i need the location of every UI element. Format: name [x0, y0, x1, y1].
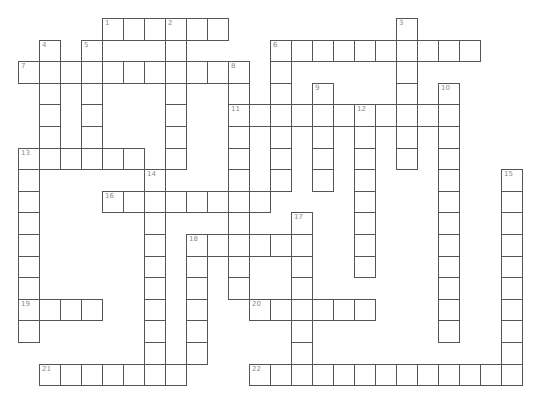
crossword-cell[interactable]	[81, 104, 103, 127]
crossword-cell[interactable]	[291, 256, 313, 279]
crossword-cell[interactable]	[501, 299, 523, 322]
crossword-cell[interactable]	[81, 83, 103, 106]
crossword-cell[interactable]: 19	[18, 299, 40, 322]
crossword-cell[interactable]	[375, 364, 397, 387]
crossword-cell[interactable]	[18, 256, 40, 279]
crossword-cell[interactable]	[312, 148, 334, 171]
crossword-cell[interactable]	[228, 277, 250, 300]
crossword-cell[interactable]	[186, 342, 208, 365]
crossword-cell[interactable]	[18, 277, 40, 300]
crossword-cell[interactable]	[333, 40, 355, 63]
crossword-cell[interactable]	[144, 277, 166, 300]
crossword-cell[interactable]	[459, 364, 481, 387]
crossword-cell[interactable]	[144, 320, 166, 343]
crossword-cell[interactable]	[396, 126, 418, 149]
crossword-cell[interactable]	[165, 61, 187, 84]
crossword-cell[interactable]	[354, 364, 376, 387]
crossword-cell[interactable]	[333, 364, 355, 387]
crossword-cell[interactable]	[312, 169, 334, 192]
crossword-cell[interactable]	[186, 256, 208, 279]
crossword-cell[interactable]: 4	[39, 40, 61, 63]
crossword-cell[interactable]	[375, 104, 397, 127]
crossword-cell[interactable]: 21	[39, 364, 61, 387]
crossword-cell[interactable]	[249, 234, 271, 257]
crossword-cell[interactable]: 2	[165, 18, 187, 41]
crossword-cell[interactable]: 11	[228, 104, 250, 127]
crossword-cell[interactable]	[228, 169, 250, 192]
crossword-cell[interactable]: 16	[102, 191, 124, 214]
crossword-cell[interactable]: 8	[228, 61, 250, 84]
crossword-cell[interactable]	[438, 191, 460, 214]
crossword-cell[interactable]	[228, 234, 250, 257]
crossword-cell[interactable]	[417, 40, 439, 63]
crossword-cell[interactable]	[354, 148, 376, 171]
crossword-cell[interactable]	[396, 104, 418, 127]
crossword-cell[interactable]: 15	[501, 169, 523, 192]
crossword-cell[interactable]	[144, 212, 166, 235]
crossword-cell[interactable]	[228, 126, 250, 149]
crossword-cell[interactable]	[396, 148, 418, 171]
crossword-cell[interactable]	[480, 364, 502, 387]
crossword-cell[interactable]	[144, 191, 166, 214]
crossword-cell[interactable]	[501, 212, 523, 235]
crossword-cell[interactable]	[144, 234, 166, 257]
crossword-cell[interactable]	[417, 104, 439, 127]
crossword-cell[interactable]	[39, 104, 61, 127]
crossword-cell[interactable]	[312, 40, 334, 63]
crossword-cell[interactable]	[438, 256, 460, 279]
crossword-cell[interactable]: 3	[396, 18, 418, 41]
crossword-cell[interactable]	[333, 299, 355, 322]
crossword-cell[interactable]: 17	[291, 212, 313, 235]
crossword-cell[interactable]	[312, 364, 334, 387]
crossword-cell[interactable]	[39, 126, 61, 149]
crossword-cell[interactable]	[81, 299, 103, 322]
crossword-cell[interactable]	[60, 61, 82, 84]
crossword-cell[interactable]	[102, 148, 124, 171]
crossword-cell[interactable]	[438, 320, 460, 343]
crossword-cell[interactable]	[60, 299, 82, 322]
crossword-cell[interactable]: 5	[81, 40, 103, 63]
crossword-cell[interactable]	[438, 126, 460, 149]
crossword-cell[interactable]	[18, 320, 40, 343]
crossword-cell[interactable]	[438, 364, 460, 387]
crossword-cell[interactable]	[207, 61, 229, 84]
crossword-cell[interactable]	[144, 299, 166, 322]
crossword-cell[interactable]	[270, 83, 292, 106]
crossword-cell[interactable]	[18, 191, 40, 214]
crossword-cell[interactable]	[144, 364, 166, 387]
crossword-cell[interactable]	[270, 234, 292, 257]
crossword-cell[interactable]	[165, 40, 187, 63]
crossword-cell[interactable]	[438, 148, 460, 171]
crossword-cell[interactable]: 6	[270, 40, 292, 63]
crossword-cell[interactable]: 12	[354, 104, 376, 127]
crossword-cell[interactable]	[165, 104, 187, 127]
crossword-cell[interactable]	[18, 234, 40, 257]
crossword-cell[interactable]	[270, 299, 292, 322]
crossword-cell[interactable]: 13	[18, 148, 40, 171]
crossword-cell[interactable]	[438, 277, 460, 300]
crossword-cell[interactable]	[18, 169, 40, 192]
crossword-cell[interactable]	[291, 40, 313, 63]
crossword-cell[interactable]	[501, 320, 523, 343]
crossword-cell[interactable]	[396, 364, 418, 387]
crossword-cell[interactable]	[438, 299, 460, 322]
crossword-cell[interactable]	[60, 364, 82, 387]
crossword-cell[interactable]	[228, 148, 250, 171]
crossword-cell[interactable]	[333, 104, 355, 127]
crossword-cell[interactable]	[81, 148, 103, 171]
crossword-cell[interactable]	[270, 104, 292, 127]
crossword-cell[interactable]	[81, 364, 103, 387]
crossword-cell[interactable]	[144, 18, 166, 41]
crossword-cell[interactable]	[396, 61, 418, 84]
crossword-cell[interactable]	[270, 148, 292, 171]
crossword-cell[interactable]	[249, 104, 271, 127]
crossword-cell[interactable]	[186, 320, 208, 343]
crossword-cell[interactable]	[312, 126, 334, 149]
crossword-cell[interactable]	[39, 299, 61, 322]
crossword-cell[interactable]: 18	[186, 234, 208, 257]
crossword-cell[interactable]	[81, 61, 103, 84]
crossword-cell[interactable]	[123, 148, 145, 171]
crossword-cell[interactable]	[165, 148, 187, 171]
crossword-cell[interactable]: 22	[249, 364, 271, 387]
crossword-cell[interactable]	[123, 364, 145, 387]
